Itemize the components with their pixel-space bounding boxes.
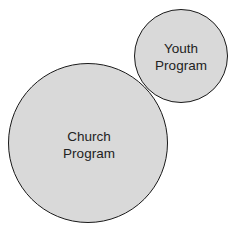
church-label-line1: Church xyxy=(63,128,115,145)
church-program-label: Church Program xyxy=(63,128,115,162)
church-label-line2: Program xyxy=(63,145,115,162)
youth-label-line1: Youth xyxy=(155,40,207,57)
youth-program-label: Youth Program xyxy=(155,40,207,74)
youth-label-line2: Program xyxy=(155,57,207,74)
